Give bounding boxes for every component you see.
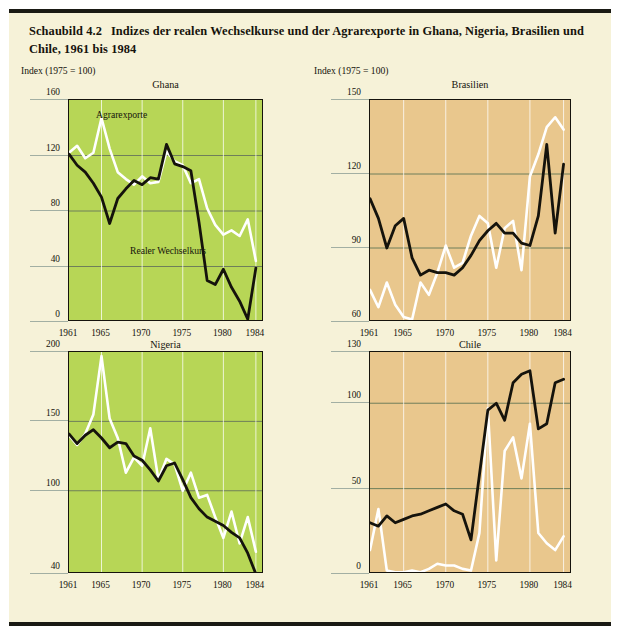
x-tick-label: 1975 bbox=[467, 328, 507, 338]
x-tick-label: 1970 bbox=[121, 328, 161, 338]
y-tick-rule bbox=[331, 488, 369, 489]
y-tick-label: 100 bbox=[323, 390, 361, 400]
x-tick-label: 1970 bbox=[425, 328, 465, 338]
plot-canvas-ghana bbox=[69, 100, 263, 321]
y-tick-rule bbox=[331, 247, 369, 248]
y-tick-label: 80 bbox=[22, 198, 60, 208]
y-tick-label: 130 bbox=[323, 339, 361, 349]
chart-panel-brasilien: Index (1975 = 100) Brasilien 60901201501… bbox=[314, 65, 606, 335]
y-tick-rule bbox=[30, 155, 68, 156]
chart-title-brasilien: Brasilien bbox=[369, 79, 571, 90]
y-tick-label: 120 bbox=[323, 161, 361, 171]
y-tick-label: 40 bbox=[22, 561, 60, 571]
y-tick-label: 150 bbox=[22, 408, 60, 418]
chart-title-ghana: Ghana bbox=[68, 79, 263, 90]
y-tick-label: 150 bbox=[323, 87, 361, 97]
y-tick-label: 40 bbox=[22, 254, 60, 264]
y-tick-label: 60 bbox=[323, 309, 361, 319]
y-tick-label: 200 bbox=[22, 339, 60, 349]
plot-area-brasilien bbox=[369, 99, 571, 321]
plot-area-chile bbox=[369, 351, 571, 573]
x-tick-label: 1970 bbox=[425, 580, 465, 590]
x-tick-label: 1984 bbox=[235, 328, 275, 338]
index-note-brasilien: Index (1975 = 100) bbox=[314, 65, 388, 76]
y-tick-rule bbox=[331, 351, 369, 352]
y-tick-label: 90 bbox=[323, 235, 361, 245]
y-tick-rule bbox=[30, 210, 68, 211]
y-tick-rule bbox=[30, 490, 68, 491]
x-tick-label: 1965 bbox=[81, 580, 121, 590]
index-note-ghana: Index (1975 = 100) bbox=[21, 65, 95, 76]
figure-number: Schaubild 4.2 bbox=[29, 24, 102, 38]
y-tick-rule bbox=[331, 173, 369, 174]
series-label-wechselkurs: Realer Wechselkurs bbox=[130, 245, 206, 256]
figure-title-text: Indizes der realen Wechselkurse und der … bbox=[29, 24, 584, 56]
y-tick-rule bbox=[30, 99, 68, 100]
series-line-agrarexporte bbox=[69, 356, 256, 552]
y-tick-rule bbox=[30, 351, 68, 352]
chart-panel-chile: Chile 050100130196119651970197519801984 bbox=[314, 339, 606, 611]
y-tick-label: 120 bbox=[22, 143, 60, 153]
series-label-agrarexporte: Agrarexporte bbox=[96, 109, 147, 120]
y-tick-rule bbox=[331, 99, 369, 100]
y-tick-rule bbox=[30, 573, 68, 574]
y-tick-rule bbox=[30, 266, 68, 267]
top-rule bbox=[9, 9, 611, 13]
y-tick-label: 0 bbox=[323, 561, 361, 571]
x-tick-label: 1965 bbox=[383, 580, 423, 590]
figure-title: Schaubild 4.2Indizes der realen Wechselk… bbox=[29, 23, 599, 58]
y-tick-label: 50 bbox=[323, 476, 361, 486]
bottom-rule bbox=[9, 622, 611, 626]
y-tick-rule bbox=[331, 402, 369, 403]
y-tick-rule bbox=[331, 321, 369, 322]
y-tick-rule bbox=[331, 573, 369, 574]
figure-page: Schaubild 4.2Indizes der realen Wechselk… bbox=[9, 9, 611, 626]
x-tick-label: 1975 bbox=[162, 580, 202, 590]
y-tick-rule bbox=[30, 321, 68, 322]
x-tick-label: 1975 bbox=[467, 580, 507, 590]
plot-canvas-chile bbox=[370, 352, 571, 573]
plot-area-nigeria bbox=[68, 351, 263, 573]
chart-title-chile: Chile bbox=[369, 339, 571, 350]
plot-canvas-nigeria bbox=[69, 352, 263, 573]
x-tick-label: 1970 bbox=[121, 580, 161, 590]
x-tick-label: 1984 bbox=[543, 328, 583, 338]
plot-area-ghana bbox=[68, 99, 263, 321]
chart-panel-nigeria: Nigeria 40100150200196119651970197519801… bbox=[21, 339, 311, 611]
series-line-agrarexporte bbox=[370, 117, 564, 319]
y-tick-label: 100 bbox=[22, 478, 60, 488]
y-tick-label: 160 bbox=[22, 87, 60, 97]
series-line-agrarexporte bbox=[370, 408, 564, 572]
x-tick-label: 1965 bbox=[81, 328, 121, 338]
series-line-wechselkurs bbox=[370, 371, 564, 540]
plot-canvas-brasilien bbox=[370, 100, 571, 321]
y-tick-label: 0 bbox=[22, 309, 60, 319]
x-tick-label: 1965 bbox=[383, 328, 423, 338]
series-line-wechselkurs bbox=[69, 430, 256, 573]
y-tick-rule bbox=[30, 420, 68, 421]
x-tick-label: 1984 bbox=[235, 580, 275, 590]
chart-title-nigeria: Nigeria bbox=[68, 339, 263, 350]
x-tick-label: 1975 bbox=[162, 328, 202, 338]
chart-panel-ghana: Index (1975 = 100) Ghana 040801201601961… bbox=[21, 65, 311, 335]
x-tick-label: 1984 bbox=[543, 580, 583, 590]
